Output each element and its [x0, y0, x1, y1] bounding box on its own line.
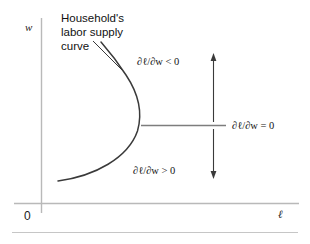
annotation-negative-slope: ∂ℓ/∂w < 0 [137, 55, 179, 68]
x-axis-label: ℓ [278, 208, 283, 222]
curve-callout-line-2: labor supply [61, 25, 123, 39]
arrowhead-up-icon [211, 53, 217, 61]
origin-label: 0 [24, 209, 31, 224]
annotation-zero-slope: ∂ℓ/∂w = 0 [232, 119, 274, 132]
callout-leader-line [93, 41, 122, 70]
labor-supply-curve-figure: w ℓ 0 Household's labor supply curve ∂ℓ/… [0, 0, 310, 244]
curve-callout-line-1: Household's [61, 11, 124, 25]
labor-supply-curve [58, 42, 140, 181]
y-axis-label: w [25, 21, 32, 35]
arrowhead-down-icon [211, 171, 217, 179]
annotation-positive-slope: ∂ℓ/∂w > 0 [133, 164, 175, 177]
curve-callout-line-3: curve [61, 39, 89, 53]
